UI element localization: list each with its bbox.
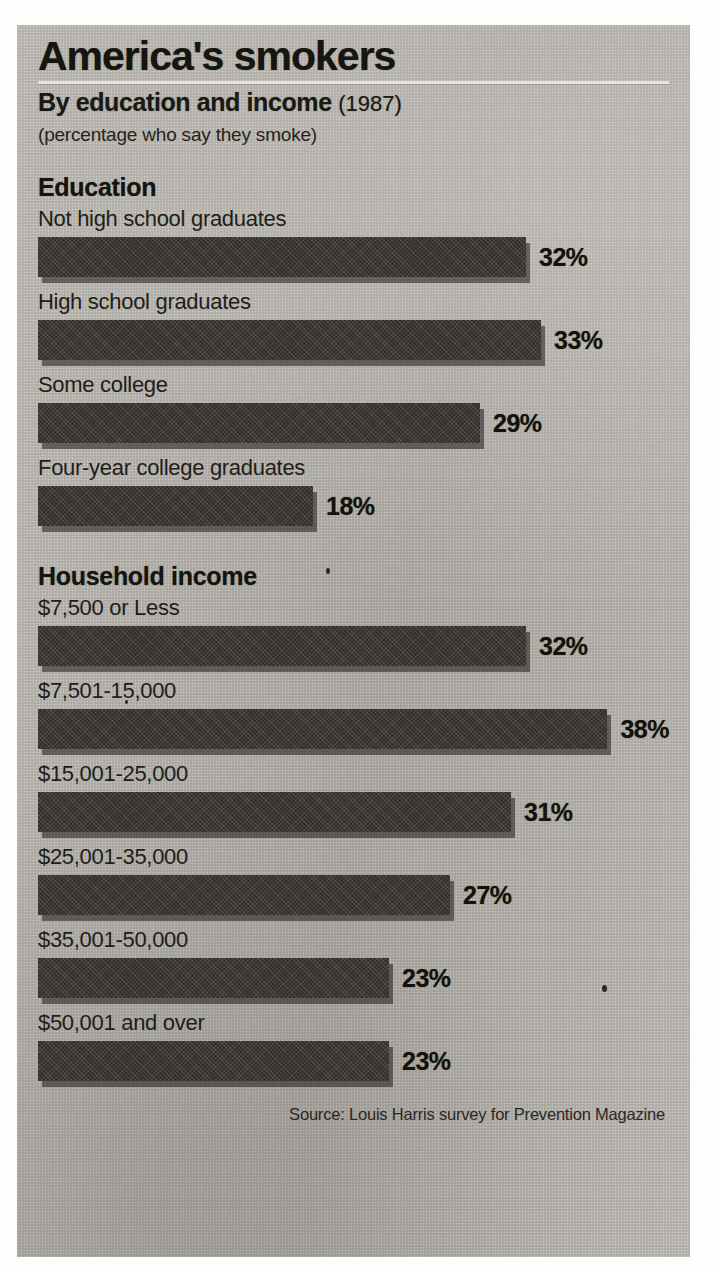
bar-value: 23% (402, 1047, 451, 1076)
bar-track (38, 626, 526, 666)
bar-row: $25,001-35,00027% (38, 844, 669, 917)
bar-label: $15,001-25,000 (38, 761, 669, 787)
bar-label: Some college (38, 372, 669, 398)
bar-track (38, 958, 389, 998)
bar-line: 29% (38, 401, 669, 445)
chart-content: America's smokers By education and incom… (17, 25, 690, 1124)
bar-row: Not high school graduates32% (38, 206, 669, 279)
bar-line: 18% (38, 484, 669, 528)
bar-value: 27% (463, 881, 512, 910)
bar-label: $50,001 and over (38, 1010, 669, 1036)
bar-value: 29% (493, 409, 542, 438)
bar-track (38, 875, 450, 915)
section-heading-2: Household income (38, 562, 669, 591)
bar-fill (38, 320, 541, 360)
chart-note: (percentage who say they smoke) (38, 123, 669, 147)
bar-track (38, 709, 607, 749)
bar-row: High school graduates33% (38, 289, 669, 362)
bar-fill (38, 875, 450, 915)
page-title: America's smokers (38, 25, 669, 78)
subtitle-year: (1987) (338, 91, 402, 116)
bar-line: 23% (38, 1039, 669, 1083)
bar-value: 32% (539, 243, 588, 272)
bar-value: 32% (539, 632, 588, 661)
bar-label: High school graduates (38, 289, 669, 315)
bar-line: 23% (38, 956, 669, 1000)
infographic-page: smokers America's smokers By education a… (0, 0, 714, 1272)
bar-value: 33% (554, 326, 603, 355)
bar-track (38, 403, 480, 443)
bar-label: Four-year college graduates (38, 455, 669, 481)
bar-label: $7,500 or Less (38, 595, 669, 621)
ink-speck (326, 568, 330, 574)
bar-track (38, 237, 526, 277)
chart-panel: America's smokers By education and incom… (17, 25, 690, 1257)
bar-line: 32% (38, 235, 669, 279)
bar-row: Some college29% (38, 372, 669, 445)
bar-row: Four-year college graduates18% (38, 455, 669, 528)
bar-row: $7,500 or Less32% (38, 595, 669, 668)
section-spacer (38, 528, 669, 562)
bar-line: 27% (38, 873, 669, 917)
bar-track (38, 1041, 389, 1081)
chart-sections: EducationNot high school graduates32%Hig… (38, 147, 669, 1083)
bar-track (38, 486, 313, 526)
bar-value: 23% (402, 964, 451, 993)
bar-line: 33% (38, 318, 669, 362)
bar-label: $7,501-15,000 (38, 678, 669, 704)
bar-line: 31% (38, 790, 669, 834)
bar-fill (38, 626, 526, 666)
chart-subtitle: By education and income (1987) (38, 88, 669, 118)
bar-fill (38, 792, 511, 832)
bar-fill (38, 1041, 389, 1081)
bar-row: $50,001 and over23% (38, 1010, 669, 1083)
bar-track (38, 792, 511, 832)
bar-label: Not high school graduates (38, 206, 669, 232)
title-divider (38, 81, 669, 84)
bar-value: 31% (524, 798, 573, 827)
subtitle-text: By education and income (38, 88, 332, 116)
bar-label: $25,001-35,000 (38, 844, 669, 870)
bar-fill (38, 486, 313, 526)
bar-fill (38, 958, 389, 998)
source-credit: Source: Louis Harris survey for Preventi… (38, 1105, 669, 1124)
bar-value: 38% (620, 715, 669, 744)
ink-speck (602, 985, 607, 992)
bar-label: $35,001-50,000 (38, 927, 669, 953)
bar-value: 18% (326, 492, 375, 521)
bar-fill (38, 403, 480, 443)
section-spacer (38, 147, 669, 173)
bar-track (38, 320, 541, 360)
bar-row: $35,001-50,00023% (38, 927, 669, 1000)
section-heading-1: Education (38, 173, 669, 202)
bar-fill (38, 237, 526, 277)
bar-row: $7,501-15,00038% (38, 678, 669, 751)
bar-line: 32% (38, 624, 669, 668)
bar-fill (38, 709, 607, 749)
bar-line: 38% (38, 707, 669, 751)
bar-row: $15,001-25,00031% (38, 761, 669, 834)
ink-speck (125, 700, 128, 704)
